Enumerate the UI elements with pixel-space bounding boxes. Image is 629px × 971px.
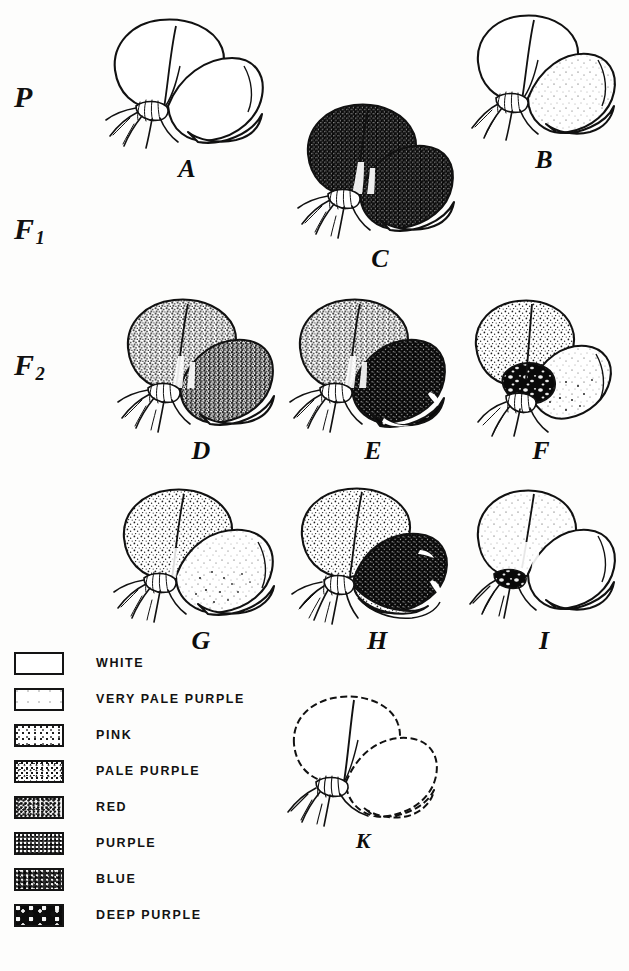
legend-label-white: WHITE — [96, 656, 144, 670]
sepal-3-k — [324, 795, 330, 826]
swatch-very-pale-purple — [14, 688, 64, 711]
generation-label-f1-subscript: 1 — [36, 227, 46, 248]
sepal-2-g — [132, 588, 150, 618]
sepal-2-c — [316, 204, 334, 234]
flower-drawing-f — [462, 296, 620, 442]
legend-label-purple: PURPLE — [96, 836, 156, 850]
calyx-hatching-i — [473, 586, 504, 616]
legend-label-blue: BLUE — [96, 872, 136, 886]
specimen-i: I — [468, 486, 620, 661]
swatch-purple — [14, 832, 64, 855]
specimen-f: F — [462, 296, 620, 471]
sepal-3-h — [332, 593, 338, 624]
flower-drawing-b — [468, 10, 620, 158]
calyx-group-h — [292, 574, 358, 624]
generation-label-p-text: P — [14, 80, 33, 113]
sepal-2-k — [302, 792, 320, 822]
calyx-group-a — [106, 100, 178, 148]
legend-item-deep-purple: DEEP PURPLE — [14, 897, 245, 933]
swatch-deep-purple — [14, 904, 64, 927]
generation-label-f1-text: F — [14, 212, 35, 245]
sepal-2-d — [136, 398, 154, 428]
sepal-3-e — [330, 401, 336, 432]
flower-drawing-g — [112, 486, 290, 632]
specimen-b: B — [468, 10, 620, 185]
swatch-red-fill — [16, 798, 62, 817]
sepal-3-b — [506, 111, 512, 140]
specimen-g: G — [112, 486, 290, 661]
legend-item-pale-purple: PALE PURPLE — [14, 753, 245, 789]
swatch-red — [14, 796, 64, 819]
sepal-4-h — [346, 592, 358, 618]
sepal-3-f — [514, 409, 520, 436]
swatch-very-pale-purple-fill — [16, 690, 62, 709]
sepal-1-i — [470, 580, 496, 604]
generation-label-f2: F2 — [14, 348, 45, 385]
flower-drawing-e — [288, 296, 458, 442]
legend-label-pink: PINK — [96, 728, 132, 742]
legend-label-deep-purple: DEEP PURPLE — [96, 908, 202, 922]
pedicel-c — [298, 196, 328, 208]
flower-drawing-i — [468, 486, 620, 632]
specimen-caption-k: K — [282, 828, 444, 854]
legend-item-red: RED — [14, 789, 245, 825]
pedicel-h — [292, 582, 322, 594]
plate-canvas: P F1 F2 — [0, 0, 629, 971]
flower-drawing-a — [102, 14, 272, 164]
flower-drawing-h — [292, 486, 462, 632]
legend-item-white: WHITE — [14, 645, 245, 681]
pedicel-a — [106, 108, 136, 120]
specimen-caption-f: F — [462, 436, 620, 466]
specimen-caption-h: H — [292, 626, 462, 656]
sepal-2-e — [308, 398, 326, 428]
specimen-caption-a: A — [102, 154, 272, 184]
swatch-pale-purple-fill — [16, 762, 62, 781]
pedicel-e — [290, 390, 320, 402]
specimen-e: E — [288, 296, 458, 471]
swatch-blue-fill — [16, 870, 62, 889]
specimen-caption-d: D — [116, 436, 286, 466]
swatch-pink-fill — [16, 726, 62, 745]
colour-key-legend: WHITE VERY PALE PURPLE PINK PALE PURPLE — [14, 645, 245, 933]
swatch-pink — [14, 724, 64, 747]
specimen-k: K — [282, 694, 444, 869]
sepal-3-c — [338, 207, 344, 238]
swatch-white-fill — [16, 654, 62, 673]
flower-drawing-k — [282, 694, 444, 840]
legend-item-pink: PINK — [14, 717, 245, 753]
swatch-pale-purple — [14, 760, 64, 783]
generation-label-f1: F1 — [14, 212, 45, 249]
generation-label-f2-text: F — [14, 348, 35, 381]
calyx-group-c — [298, 188, 370, 238]
swatch-deep-purple-fill — [16, 906, 62, 925]
sepal-3-a — [146, 119, 152, 148]
calyx-group-i — [470, 570, 536, 619]
flower-drawing-c — [296, 100, 464, 252]
specimen-caption-e: E — [288, 436, 458, 466]
legend-label-pale-purple: PALE PURPLE — [96, 764, 200, 778]
calyx-group-d — [118, 382, 190, 432]
legend-item-purple: PURPLE — [14, 825, 245, 861]
legend-item-very-pale-purple: VERY PALE PURPLE — [14, 681, 245, 717]
legend-item-blue: BLUE — [14, 861, 245, 897]
swatch-white — [14, 652, 64, 675]
specimen-a: A — [102, 14, 272, 194]
specimen-h: H — [292, 486, 462, 661]
specimen-caption-i: I — [468, 626, 620, 656]
sepal-3-g — [154, 591, 160, 622]
specimen-caption-c: C — [296, 244, 464, 274]
pedicel-g — [114, 580, 144, 592]
sepal-2-a — [124, 116, 142, 146]
specimen-c: C — [296, 100, 464, 280]
calyx-h — [324, 576, 354, 595]
specimen-caption-b: B — [468, 145, 620, 175]
sepal-1-f — [478, 402, 506, 422]
generation-label-f2-subscript: 2 — [36, 363, 46, 384]
legend-label-very-pale-purple: VERY PALE PURPLE — [96, 692, 245, 706]
sepal-3-i — [504, 587, 510, 618]
flower-drawing-d — [116, 296, 286, 442]
calyx-group-e — [290, 382, 362, 432]
legend-label-red: RED — [96, 800, 127, 814]
calyx-group-g — [114, 572, 186, 622]
generation-label-p: P — [14, 80, 34, 117]
